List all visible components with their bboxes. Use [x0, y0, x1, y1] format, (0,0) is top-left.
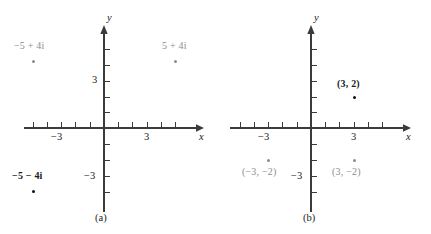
panel-a-caption: (a) [95, 212, 107, 223]
panel-b-data-point-neg3-neg2 [267, 159, 270, 162]
panel-a-ytick-label-neg3: −3 [84, 171, 96, 182]
panel-a-xtick-label-neg3: −3 [51, 132, 63, 143]
panel-a-data-point-5-plus-4i [174, 60, 177, 63]
panel-b-data-point-3-neg2 [353, 159, 356, 162]
panel-a-data-point-neg5-plus-4i [32, 60, 35, 63]
panel-b-ytick-label-neg3: −3 [291, 171, 303, 182]
panel-a-data-point-neg5-minus-4i [32, 190, 35, 193]
panel-b: x y −3 3 −3 (3, 2) (−3, −2) (3, −2) (b) [216, 0, 431, 234]
panel-b-xtick-label-neg3: −3 [258, 132, 270, 143]
panel-b-axes [216, 0, 431, 234]
panel-a-x-axis-label: x [199, 132, 204, 143]
panel-a: x y −3 3 3 −3 −5 + 4i 5 + 4i −5 − 4i (a) [0, 0, 215, 234]
panel-b-x-axis-label: x [406, 132, 411, 143]
panel-a-point-label-neg5-minus-4i: −5 − 4i [12, 171, 43, 181]
panel-a-point-label-5-plus-4i: 5 + 4i [162, 41, 187, 51]
figure-complex-plane-and-cartesian-plane: x y −3 3 3 −3 −5 + 4i 5 + 4i −5 − 4i (a) [0, 0, 431, 234]
y-axis-arrow-icon [307, 25, 314, 34]
panel-b-caption: (b) [303, 212, 315, 223]
panel-a-axes [0, 0, 215, 234]
panel-b-point-label-3-neg2: (3, −2) [332, 167, 361, 177]
panel-b-point-label-neg3-neg2: (−3, −2) [242, 167, 277, 177]
panel-a-xtick-label-3: 3 [144, 132, 149, 143]
panel-b-data-point-3-2 [353, 96, 356, 99]
panel-a-ytick-label-3: 3 [92, 75, 97, 86]
panel-a-y-axis-label: y [107, 13, 112, 24]
y-axis-arrow-icon [100, 25, 107, 34]
panel-b-y-axis-label: y [314, 13, 319, 24]
panel-b-point-label-3-2: (3, 2) [337, 79, 360, 89]
panel-a-point-label-neg5-plus-4i: −5 + 4i [14, 41, 44, 51]
panel-b-xtick-label-3: 3 [351, 132, 356, 143]
